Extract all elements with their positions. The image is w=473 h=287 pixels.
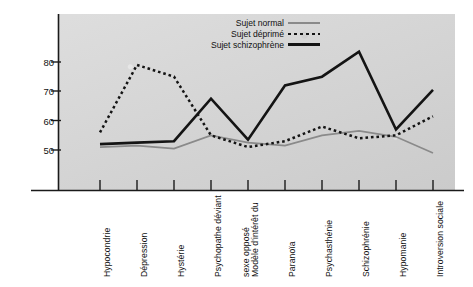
legend-label-sujet-normal: Sujet normal <box>236 18 284 28</box>
legend-swatch-solid-thick-line-icon <box>288 40 320 49</box>
legend-item-sujet-normal: Sujet normal <box>185 17 320 28</box>
chart-figure: Résultat normal 80 70 60 50 HypocondrieD… <box>0 0 473 287</box>
chart-legend: Sujet normal Sujet déprimé Sujet schizop… <box>185 17 320 50</box>
legend-label-sujet-deprime: Sujet déprimé <box>231 29 284 39</box>
legend-swatch-dotted-line-icon <box>288 29 320 38</box>
legend-item-sujet-schizophrene: Sujet schizophrène <box>185 39 320 50</box>
series-line-3 <box>100 52 433 144</box>
legend-swatch-solid-thin-line-icon <box>288 18 320 27</box>
legend-label-sujet-schizophrene: Sujet schizophrène <box>211 40 284 50</box>
data-series-layer <box>100 52 433 153</box>
y-axis-ticks <box>51 62 61 150</box>
x-axis-ticks <box>100 180 433 190</box>
legend-item-sujet-deprime: Sujet déprimé <box>185 28 320 39</box>
